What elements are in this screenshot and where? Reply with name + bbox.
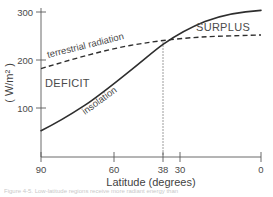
figure-caption: Figure 4-5. Low-latitude regions receive…: [4, 188, 270, 195]
surplus-label: SURPLUS: [196, 21, 250, 33]
y-tick-label-100: 100: [17, 103, 33, 114]
y-tick-label-200: 200: [17, 55, 33, 66]
x-tick-label-30: 30: [175, 164, 186, 175]
x-tick-label-60: 60: [109, 164, 120, 175]
x-tick-label-38: 38: [158, 164, 169, 175]
y-tick-label-300: 300: [17, 7, 33, 18]
x-axis-title: Latitude (degrees): [106, 176, 195, 188]
x-tick-label-0: 0: [258, 164, 263, 175]
figure-container: 300 200 100 90 60 38 30 0 Latitude (degr…: [0, 0, 273, 197]
y-axis-title: ( W/m² ): [3, 63, 15, 103]
insolation-radiation-chart: 300 200 100 90 60 38 30 0 Latitude (degr…: [0, 0, 273, 197]
terrestrial-radiation-label: terrestrial radiation: [46, 30, 125, 60]
deficit-label: DEFICIT: [45, 77, 90, 89]
x-tick-label-90: 90: [36, 164, 47, 175]
